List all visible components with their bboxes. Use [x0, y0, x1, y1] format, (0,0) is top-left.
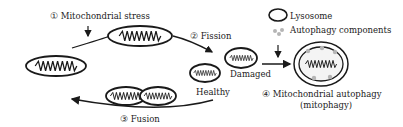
mitochondrion-left — [26, 56, 86, 76]
label-fission: ② Fission — [190, 32, 231, 41]
mitochondrion-healthy — [190, 64, 220, 82]
arc-stress — [72, 36, 110, 48]
label-healthy: Healthy — [196, 88, 230, 97]
label-mitochondrial-stress: ① Mitochondrial stress — [50, 12, 150, 21]
mitochondria-fusing — [106, 87, 176, 105]
label-mitophagy: ④ Mitochondrial autophagy — [262, 90, 382, 99]
legend-autophagy-components: Autophagy components — [290, 26, 391, 35]
label-fusion: ③ Fusion — [120, 115, 160, 124]
label-damaged: Damaged — [230, 70, 271, 79]
autophagosome — [294, 42, 348, 86]
mitochondrion-stressed — [108, 26, 172, 46]
legend-lysosome: Lysosome — [290, 12, 332, 21]
label-mitophagy-paren: (mitophagy) — [300, 101, 352, 110]
autophagy-components-icon — [273, 28, 284, 36]
mitochondrion-damaged — [225, 48, 257, 68]
lysosome-icon — [269, 9, 287, 21]
